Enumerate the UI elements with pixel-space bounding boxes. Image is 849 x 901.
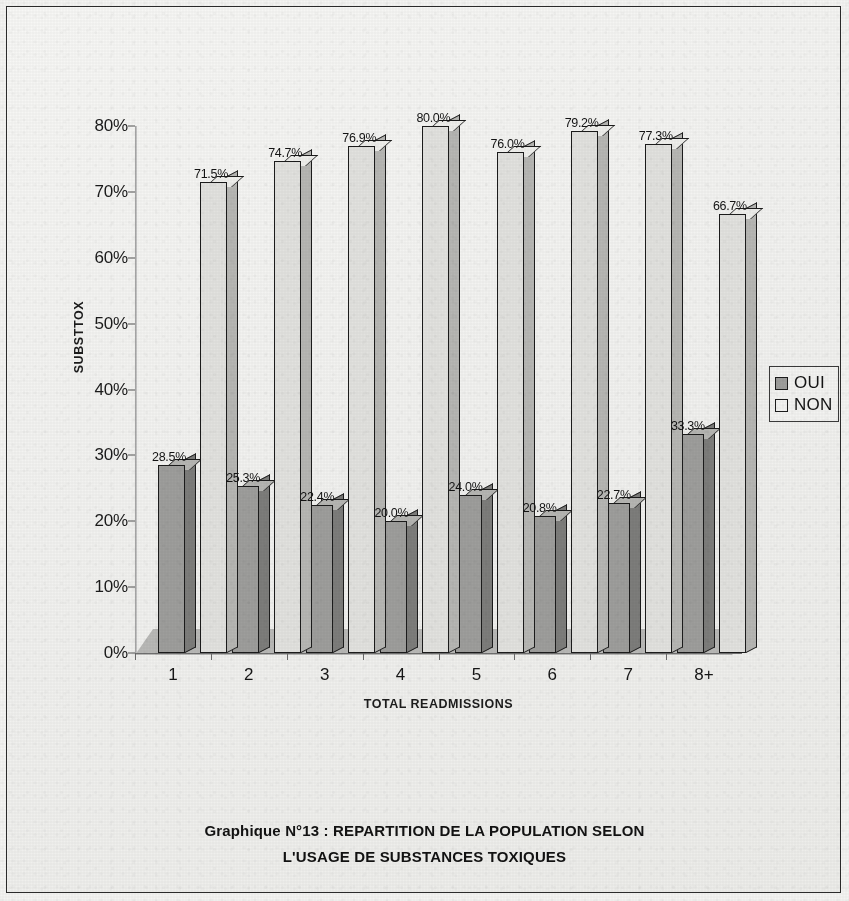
- bar-front-face: [645, 144, 672, 653]
- chart-plot-area: SUBSTTOX 80%70%60%50%40%30%20%10%0% 28.5…: [0, 0, 849, 901]
- y-axis-tick-label: 50%: [55, 314, 128, 334]
- bar-side-face: [556, 504, 567, 653]
- bar-non-6[interactable]: [571, 131, 598, 653]
- bar-value-label: 25.3%: [226, 471, 260, 485]
- chart-title: Graphique N°13 : REPARTITION DE LA POPUL…: [30, 818, 819, 870]
- x-axis-tick-label: 1: [143, 665, 203, 685]
- bar-non-3[interactable]: [348, 146, 375, 653]
- chart-legend: OUI NON: [769, 366, 839, 422]
- bar-side-face: [672, 132, 683, 653]
- bar-front-face: [348, 146, 375, 653]
- x-axis-tick-label: 2: [219, 665, 279, 685]
- y-axis-line: [135, 126, 137, 653]
- bar-front-face: [497, 152, 524, 653]
- bar-value-label: 71.5%: [194, 167, 228, 181]
- bar-oui-1[interactable]: [158, 465, 185, 653]
- legend-item-non[interactable]: NON: [775, 394, 832, 416]
- bar-non-2[interactable]: [274, 161, 301, 653]
- y-axis-tick-label: 60%: [55, 248, 128, 268]
- bar-value-label: 20.0%: [374, 506, 408, 520]
- bar-side-face: [407, 509, 418, 653]
- x-axis-tick-mark: [363, 653, 364, 660]
- x-axis-title: TOTAL READMISSIONS: [135, 697, 742, 711]
- bar-side-face: [482, 483, 493, 653]
- y-axis-tick-mark: [128, 653, 135, 654]
- y-axis-tick-mark: [128, 389, 135, 390]
- bar-side-face: [375, 135, 386, 653]
- bar-value-label: 74.7%: [268, 146, 302, 160]
- x-axis-tick-mark: [590, 653, 591, 660]
- bar-side-face: [598, 119, 609, 653]
- bar-side-face: [704, 422, 715, 653]
- bar-side-face: [227, 170, 238, 653]
- bar-front-face: [158, 465, 185, 653]
- y-axis-tick-label: 70%: [55, 182, 128, 202]
- y-axis-tick-label: 80%: [55, 116, 128, 136]
- legend-swatch-oui: [775, 377, 788, 390]
- x-axis-tick-mark: [666, 653, 667, 660]
- y-axis-tick-mark: [128, 191, 135, 192]
- x-axis-tick-mark: [287, 653, 288, 660]
- bar-side-face: [746, 202, 757, 653]
- bar-value-label: 28.5%: [152, 450, 186, 464]
- bar-front-face: [422, 126, 449, 653]
- y-axis-tick-mark: [128, 521, 135, 522]
- bar-front-face: [274, 161, 301, 653]
- bar-non-5[interactable]: [497, 152, 524, 653]
- bar-value-label: 66.7%: [713, 199, 747, 213]
- x-axis-tick-label: 4: [371, 665, 431, 685]
- chart-title-line-2: L'USAGE DE SUBSTANCES TOXIQUES: [30, 844, 819, 870]
- legend-swatch-non: [775, 399, 788, 412]
- bar-side-face: [524, 140, 535, 652]
- y-axis-tick-mark: [128, 257, 135, 258]
- x-axis-tick-label: 5: [446, 665, 506, 685]
- bar-non-7[interactable]: [645, 144, 672, 653]
- bar-value-label: 76.9%: [342, 131, 376, 145]
- bar-front-face: [200, 182, 227, 653]
- x-axis-tick-mark: [514, 653, 515, 660]
- legend-label-non: NON: [794, 395, 832, 415]
- x-axis-tick-mark: [211, 653, 212, 660]
- y-axis-tick-mark: [128, 323, 135, 324]
- x-axis-tick-label: 7: [598, 665, 658, 685]
- y-axis-tick-label: 40%: [55, 380, 128, 400]
- bar-side-face: [630, 492, 641, 653]
- bar-value-label: 22.4%: [300, 490, 334, 504]
- bar-value-label: 80.0%: [416, 111, 450, 125]
- bar-value-label: 24.0%: [449, 480, 483, 494]
- bar-non-8+[interactable]: [719, 214, 746, 653]
- bar-value-label: 33.3%: [671, 419, 705, 433]
- y-axis-tick-mark: [128, 455, 135, 456]
- x-axis-tick-mark: [135, 653, 136, 660]
- bar-side-face: [449, 114, 460, 653]
- bar-non-4[interactable]: [422, 126, 449, 653]
- bar-front-face: [571, 131, 598, 653]
- bar-non-1[interactable]: [200, 182, 227, 653]
- bar-value-label: 20.8%: [523, 501, 557, 515]
- x-axis-tick-label: 3: [295, 665, 355, 685]
- bar-front-face: [719, 214, 746, 653]
- legend-item-oui[interactable]: OUI: [775, 372, 832, 394]
- bar-value-label: 22.7%: [597, 488, 631, 502]
- legend-label-oui: OUI: [794, 373, 825, 393]
- chart-title-line-1: Graphique N°13 : REPARTITION DE LA POPUL…: [30, 818, 819, 844]
- x-axis-tick-label: 6: [522, 665, 582, 685]
- bar-side-face: [333, 494, 344, 653]
- bar-value-label: 79.2%: [565, 116, 599, 130]
- y-axis-tick-label: 0%: [55, 643, 128, 663]
- bar-side-face: [185, 453, 196, 653]
- y-axis-tick-label: 10%: [55, 577, 128, 597]
- bar-value-label: 76.0%: [491, 137, 525, 151]
- bar-side-face: [301, 149, 312, 653]
- y-axis-tick-mark: [128, 587, 135, 588]
- x-axis-tick-mark: [439, 653, 440, 660]
- y-axis-tick-mark: [128, 126, 135, 127]
- x-axis-tick-label: 8+: [674, 665, 734, 685]
- y-axis-tick-label: 20%: [55, 511, 128, 531]
- bar-side-face: [259, 474, 270, 653]
- y-axis-tick-label: 30%: [55, 445, 128, 465]
- bar-value-label: 77.3%: [639, 129, 673, 143]
